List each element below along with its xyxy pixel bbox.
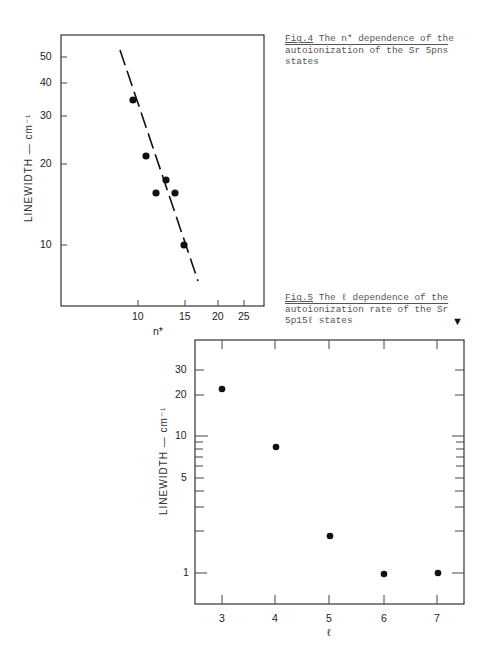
x-tick-4: 4 [272,612,278,624]
y-tick-30: 30 [175,363,187,375]
x-tick-6: 6 [381,612,387,624]
x-tick-5: 5 [326,612,332,624]
x-tick-7: 7 [434,612,440,624]
x-tick-3: 3 [219,612,225,624]
y-tick-10: 10 [175,429,187,441]
y-tick-5: 5 [181,471,187,483]
x-axis-label: ℓ [326,627,331,638]
y-axis-label: LINEWIDTH — cm⁻¹ [158,407,169,515]
y-tick-1: 1 [183,566,189,578]
y-tick-20: 20 [175,388,187,400]
figure-5-plot [0,0,493,661]
